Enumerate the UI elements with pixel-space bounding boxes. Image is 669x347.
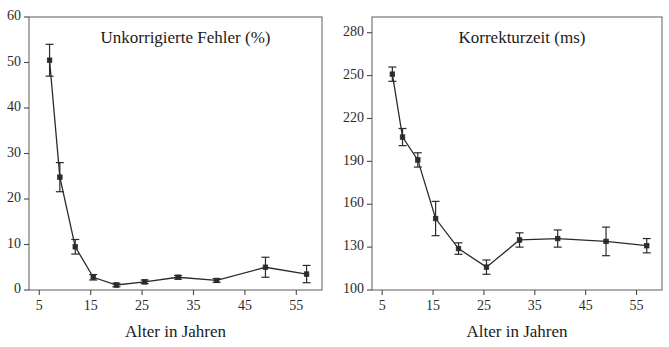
marker-0: [47, 58, 52, 63]
marker-7: [214, 278, 219, 283]
x-tick-label-4: 45: [238, 298, 252, 313]
data-point-0: [388, 67, 396, 81]
chart-title: Unkorrigierte Fehler (%): [101, 28, 271, 47]
x-tick-label-5: 55: [630, 298, 644, 313]
series-line: [50, 60, 307, 285]
x-tick-label-4: 45: [579, 298, 593, 313]
y-tick-label-5: 50: [7, 54, 21, 69]
y-tick-label-3: 30: [7, 145, 21, 160]
data-point-3: [432, 201, 440, 235]
marker-3: [433, 216, 438, 221]
chart-svg-left: 010203040506051525354555Unkorrigierte Fe…: [0, 0, 334, 347]
marker-8: [263, 265, 268, 270]
chart-title: Korrekturzeit (ms): [459, 28, 586, 47]
y-tick-label-4: 220: [343, 110, 364, 125]
data-point-1: [399, 128, 407, 145]
data-point-3: [89, 275, 97, 280]
x-tick-label-2: 25: [135, 298, 149, 313]
y-tick-label-5: 250: [343, 67, 364, 82]
chart-panel-correction-time: 10013016019022025028051525354555Korrektu…: [334, 0, 668, 347]
x-tick-label-3: 35: [528, 298, 542, 313]
y-tick-label-6: 60: [7, 8, 21, 23]
x-tick-label-0: 5: [379, 298, 386, 313]
data-point-0: [46, 44, 54, 76]
marker-2: [73, 244, 78, 249]
y-tick-label-6: 280: [343, 24, 364, 39]
marker-4: [456, 246, 461, 251]
x-tick-label-1: 15: [426, 298, 440, 313]
marker-4: [114, 283, 119, 288]
x-tick-label-3: 35: [186, 298, 200, 313]
marker-5: [484, 265, 489, 270]
marker-8: [604, 239, 609, 244]
marker-1: [400, 135, 405, 140]
marker-9: [304, 272, 309, 277]
y-tick-label-0: 0: [14, 281, 21, 296]
x-axis-title: Alter in Jahren: [466, 322, 568, 341]
marker-7: [555, 236, 560, 241]
x-tick-label-1: 15: [84, 298, 98, 313]
y-tick-label-0: 100: [343, 281, 364, 296]
data-point-5: [482, 260, 490, 274]
marker-9: [644, 243, 649, 248]
x-tick-label-0: 5: [36, 298, 43, 313]
chart-panel-uncorrected-errors: 010203040506051525354555Unkorrigierte Fe…: [0, 0, 334, 347]
figure-container: 010203040506051525354555Unkorrigierte Fe…: [0, 0, 669, 347]
marker-6: [517, 238, 522, 243]
marker-2: [415, 158, 420, 163]
x-tick-label-5: 55: [289, 298, 303, 313]
marker-1: [58, 175, 63, 180]
y-tick-label-4: 40: [7, 99, 21, 114]
plot-frame: [372, 17, 662, 290]
x-axis-title: Alter in Jahren: [125, 322, 227, 341]
y-tick-label-3: 190: [343, 153, 364, 168]
chart-svg-right: 10013016019022025028051525354555Korrektu…: [334, 0, 668, 347]
y-tick-label-2: 20: [7, 190, 21, 205]
marker-0: [390, 72, 395, 77]
marker-6: [176, 275, 181, 280]
y-tick-label-2: 160: [343, 195, 364, 210]
marker-3: [91, 275, 96, 280]
marker-5: [142, 280, 147, 285]
x-tick-label-2: 25: [477, 298, 491, 313]
y-tick-label-1: 130: [343, 238, 364, 253]
y-tick-label-1: 10: [7, 236, 21, 251]
